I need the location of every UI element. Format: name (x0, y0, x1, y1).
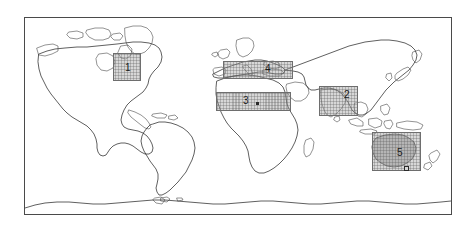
coastline-arctic-islands-3 (111, 33, 123, 40)
region-box-2[interactable] (319, 86, 358, 116)
coastline-sulawesi (384, 120, 393, 129)
coastline-new-guinea (397, 121, 423, 130)
coastline-new-zealand (429, 150, 440, 163)
coastline-scandinavia (236, 38, 254, 57)
coastline-ireland (212, 52, 218, 57)
coastline-africa (216, 75, 298, 173)
coastline-north-america (38, 42, 162, 156)
coastline-new-zealand-south (424, 162, 432, 170)
coastline-alaska (37, 44, 58, 56)
coastline-madagascar (304, 138, 314, 157)
region-label-2: 2 (344, 90, 350, 100)
coastline-sri-lanka (334, 116, 340, 122)
coastline-south-america (141, 122, 195, 195)
marker-region-3 (256, 102, 259, 105)
coastline-korea (386, 73, 392, 81)
coastline-antarctica (25, 200, 451, 208)
coastline-caribbean-2 (169, 115, 178, 120)
region-label-4: 4 (265, 64, 271, 74)
world-coastlines (25, 18, 451, 214)
region-label-5: 5 (397, 148, 403, 158)
region-label-3: 3 (243, 96, 249, 106)
world-map-figure: 1 4 3 2 5 (0, 0, 476, 234)
coastline-arctic-islands-1 (86, 28, 111, 40)
coastline-falklands (177, 198, 183, 201)
map-frame: 1 4 3 2 5 (24, 17, 452, 215)
coastline-british-isles (218, 49, 230, 59)
coastline-sumatra (349, 118, 363, 126)
coastline-arctic-islands-2 (67, 31, 83, 39)
coastline-borneo (369, 118, 382, 128)
region-box-4[interactable] (223, 61, 293, 79)
coastline-caribbean-1 (152, 113, 167, 118)
coastline-antarctic-peninsula (153, 197, 165, 204)
marker-region-5 (404, 166, 409, 171)
region-box-3[interactable] (216, 92, 291, 111)
region-label-1: 1 (125, 63, 131, 73)
coastline-central-america (128, 110, 151, 129)
coastline-philippines (381, 104, 390, 115)
coastline-greenland (125, 26, 153, 54)
